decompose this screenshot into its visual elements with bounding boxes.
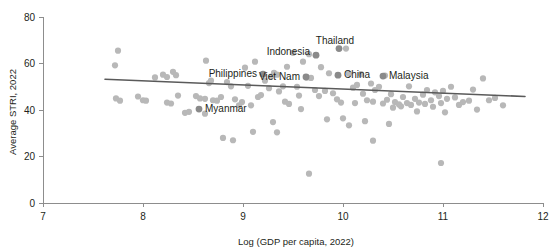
data-point <box>117 98 123 104</box>
data-point <box>480 75 486 81</box>
data-point <box>430 104 436 110</box>
data-point <box>448 84 454 90</box>
data-point <box>370 99 376 105</box>
x-axis-ticks: 789101112 <box>40 203 549 222</box>
data-point <box>203 58 209 64</box>
x-tick-label: 12 <box>537 211 549 222</box>
data-point <box>390 105 396 111</box>
y-tick-label: 40 <box>24 105 36 116</box>
data-point <box>248 102 254 108</box>
data-point <box>460 99 466 105</box>
y-tick-label: 20 <box>24 151 36 162</box>
data-point <box>352 100 358 106</box>
y-axis-title: Average STRI, 2022 <box>7 69 18 155</box>
trend-line <box>105 79 525 96</box>
data-point <box>354 82 360 88</box>
data-point <box>340 115 346 121</box>
data-point <box>452 94 458 100</box>
data-point <box>173 72 179 78</box>
data-point <box>360 91 366 97</box>
data-point <box>398 103 404 109</box>
data-point <box>112 62 118 68</box>
data-point <box>368 80 374 86</box>
data-point <box>298 106 304 112</box>
data-point <box>270 119 276 125</box>
data-point <box>338 99 344 105</box>
country-label: Indonesia <box>267 46 311 57</box>
data-point <box>386 121 392 127</box>
country-label: Thailand <box>316 35 354 46</box>
highlighted-data-point <box>336 45 343 52</box>
highlighted-data-point <box>196 106 203 113</box>
axes-group <box>43 17 543 203</box>
data-point <box>343 46 349 52</box>
data-point <box>408 102 414 108</box>
data-point <box>232 96 238 102</box>
country-label: Malaysia <box>389 70 429 81</box>
x-tick-label: 10 <box>337 211 349 222</box>
data-point <box>384 97 390 103</box>
country-label: Myanmar <box>205 103 247 114</box>
data-point <box>346 122 352 128</box>
data-point <box>230 137 236 143</box>
data-point <box>300 59 306 65</box>
data-point <box>168 100 174 106</box>
data-point <box>444 96 450 102</box>
chart-canvas: 020406080 789101112 PhilippinesIndonesia… <box>0 0 555 250</box>
data-point <box>406 83 412 89</box>
data-point <box>276 88 282 94</box>
country-label: China <box>344 69 371 80</box>
y-tick-label: 0 <box>29 198 35 209</box>
data-point <box>143 98 149 104</box>
data-point <box>362 118 368 124</box>
y-tick-label: 80 <box>24 12 36 23</box>
data-point <box>414 108 420 114</box>
x-tick-label: 9 <box>240 211 246 222</box>
data-point <box>326 70 332 76</box>
data-point <box>186 109 192 115</box>
data-point <box>500 102 506 108</box>
data-point <box>318 64 324 70</box>
data-point <box>274 129 280 135</box>
highlighted-data-point <box>380 73 387 80</box>
x-tick-label: 7 <box>40 211 46 222</box>
data-point <box>218 94 224 100</box>
data-point <box>466 98 472 104</box>
data-point <box>442 109 448 115</box>
data-point <box>164 74 170 80</box>
data-point <box>438 160 444 166</box>
data-point <box>135 93 141 99</box>
country-label: Viet Nam <box>259 71 300 82</box>
x-tick-label: 11 <box>438 211 449 222</box>
country-label: Philippines <box>209 68 257 79</box>
data-point <box>252 59 258 65</box>
data-point <box>306 171 312 177</box>
data-point <box>152 74 158 80</box>
data-point <box>175 92 181 98</box>
data-point <box>258 92 264 98</box>
data-point <box>376 84 382 90</box>
y-tick-label: 60 <box>24 58 36 69</box>
data-point <box>364 97 370 103</box>
data-point <box>400 94 406 100</box>
highlighted-data-point <box>335 72 342 79</box>
data-point <box>284 64 290 70</box>
data-point <box>324 116 330 122</box>
scatter-chart: 020406080 789101112 PhilippinesIndonesia… <box>0 0 555 250</box>
data-point <box>202 96 208 102</box>
y-axis-ticks: 020406080 <box>24 12 43 209</box>
data-point <box>474 106 480 112</box>
data-point <box>388 91 394 97</box>
data-point <box>470 86 476 92</box>
data-point <box>250 129 256 135</box>
data-points-layer <box>112 45 506 177</box>
data-point <box>416 99 422 105</box>
data-point <box>330 90 336 96</box>
x-axis-title: Log (GDP per capita, 2022) <box>238 236 354 247</box>
data-point <box>486 97 492 103</box>
data-point <box>220 135 226 141</box>
data-point <box>296 92 302 98</box>
data-point <box>428 97 434 103</box>
data-point <box>422 101 428 107</box>
data-point <box>316 93 322 99</box>
